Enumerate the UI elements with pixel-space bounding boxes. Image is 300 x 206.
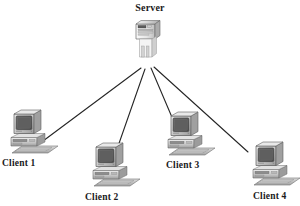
client-2-label: Client 2 <box>85 192 119 202</box>
server-label: Server <box>0 2 300 13</box>
connection-server-client-2 <box>116 69 145 152</box>
server-tower-icon <box>136 21 160 58</box>
client-node-2[interactable] <box>93 143 140 186</box>
client-4-label: Client 4 <box>253 191 287 201</box>
client-1-label: Client 1 <box>2 158 36 168</box>
desktop-computer-icon <box>168 112 215 155</box>
connection-server-client-3 <box>151 68 174 122</box>
desktop-computer-icon <box>253 142 300 185</box>
client-node-4[interactable] <box>253 142 300 185</box>
client-3-label: Client 3 <box>166 160 200 170</box>
network-canvas <box>0 0 300 206</box>
network-diagram: Server Client 1 Client 2 Client 3 Client… <box>0 0 300 206</box>
client-node-1[interactable] <box>11 110 58 153</box>
client-node-3[interactable] <box>168 112 215 155</box>
desktop-computer-icon <box>93 143 140 186</box>
connection-lines <box>43 67 248 152</box>
server-node[interactable] <box>136 21 160 58</box>
desktop-computer-icon <box>11 110 58 153</box>
connection-server-client-1 <box>43 68 141 141</box>
